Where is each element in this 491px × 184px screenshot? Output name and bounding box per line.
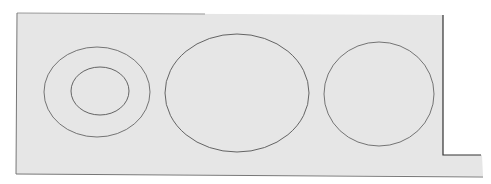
panel-right-wall bbox=[443, 15, 481, 155]
diagram-svg bbox=[0, 0, 491, 184]
diagram-canvas bbox=[0, 0, 491, 184]
